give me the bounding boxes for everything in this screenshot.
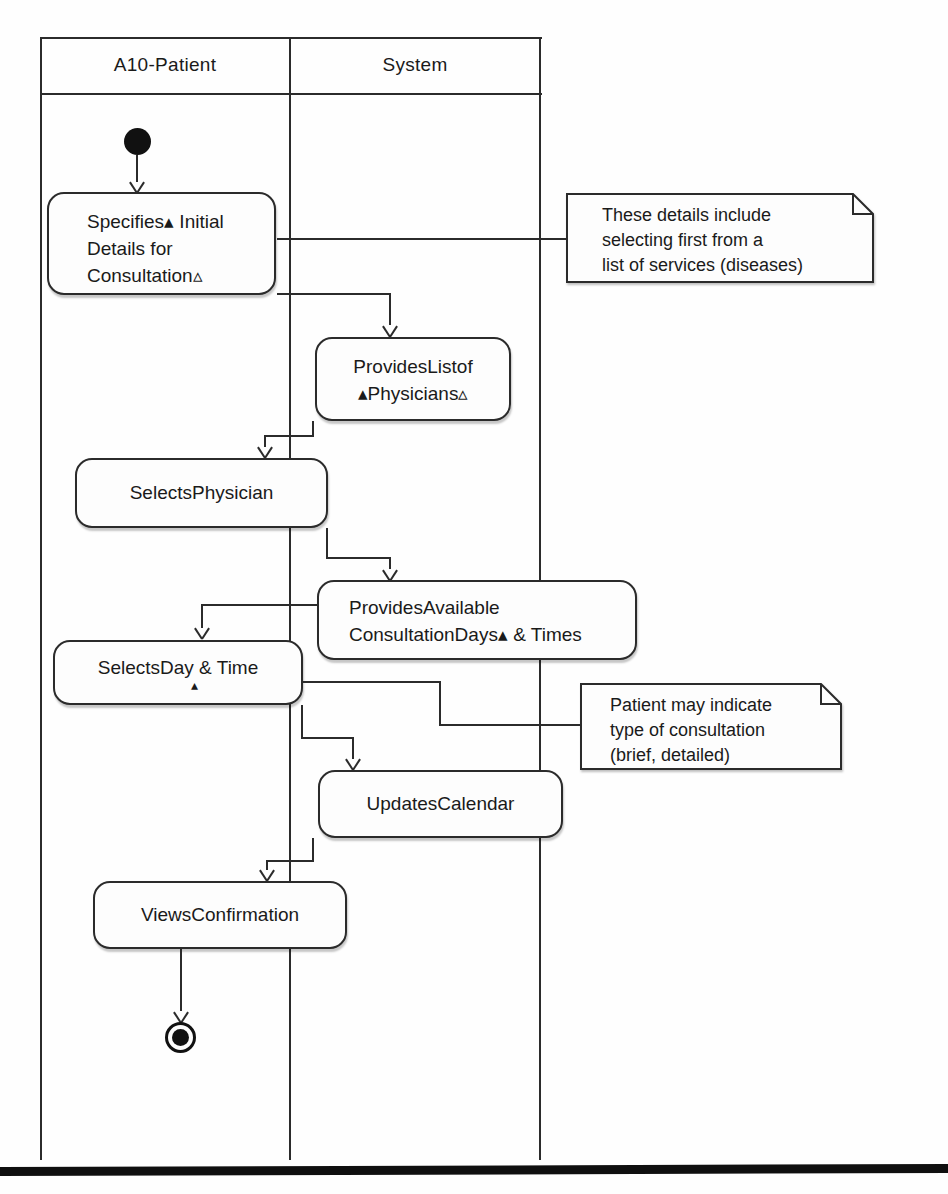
- edge-segment: [302, 681, 441, 683]
- edge-segment: [389, 557, 391, 569]
- activity-selects-day-time: SelectsDay & Time ▴: [53, 640, 303, 705]
- lane-header-system: System: [290, 54, 540, 76]
- edge-segment: [326, 557, 391, 559]
- arrowhead-down-icon: [383, 568, 397, 580]
- lane-header-patient: A10-Patient: [40, 54, 290, 76]
- edge-segment: [136, 155, 138, 182]
- activity-updates-calendar: UpdatesCalendar: [318, 770, 563, 838]
- edge-segment: [389, 293, 391, 325]
- swimlane-frame-top: [40, 37, 542, 39]
- final-node-dot: [172, 1029, 189, 1046]
- arrowhead-down-icon: [346, 757, 360, 769]
- edge-segment: [326, 528, 328, 559]
- swimlane-left-border: [40, 37, 42, 1160]
- arrowhead-down-icon: [258, 445, 272, 457]
- edge-segment: [439, 681, 441, 726]
- activity-provides-list-of-physicians: ProvidesListof ▴Physicians▵: [315, 337, 511, 421]
- activity-diagram-page: A10-Patient System Specifies▴ Initial De…: [0, 0, 948, 1194]
- final-node-icon: [165, 1022, 196, 1053]
- edge-segment: [301, 737, 354, 739]
- activity-specifies-initial-details: Specifies▴ Initial Details for Consultat…: [47, 192, 276, 295]
- edge-segment: [202, 604, 317, 606]
- note-services-details: These details include selecting first fr…: [566, 193, 874, 283]
- swimlane-header-divider: [40, 93, 542, 95]
- edge-segment: [312, 421, 314, 437]
- edge-segment: [277, 238, 566, 240]
- arrowhead-down-icon: [195, 626, 209, 638]
- edge-segment: [180, 949, 182, 1011]
- edge-segment: [277, 293, 391, 295]
- activity-provides-available-days-times: ProvidesAvailable ConsultationDays▴ & Ti…: [317, 580, 637, 660]
- arrowhead-down-icon: [260, 868, 274, 880]
- note-consultation-type: Patient may indicate type of consultatio…: [580, 683, 842, 770]
- arrowhead-down-icon: [130, 180, 144, 192]
- edge-segment: [266, 860, 268, 870]
- edge-segment: [312, 838, 314, 862]
- arrowhead-down-icon: [174, 1010, 188, 1022]
- page-bottom-scan-bar: [0, 1164, 948, 1176]
- initial-node-icon: [124, 128, 151, 155]
- edge-segment: [301, 705, 303, 739]
- activity-selects-physician: SelectsPhysician: [75, 458, 328, 528]
- edge-segment: [352, 737, 354, 759]
- activity-views-confirmation: ViewsConfirmation: [93, 881, 347, 949]
- arrowhead-down-icon: [383, 324, 397, 336]
- swimlane-lane-divider: [289, 37, 291, 1160]
- edge-segment: [439, 724, 580, 726]
- edge-segment: [264, 435, 266, 447]
- edge-segment: [201, 604, 203, 628]
